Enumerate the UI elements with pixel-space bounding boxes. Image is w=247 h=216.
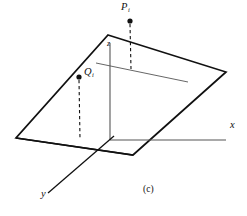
- parallelogram-plane: [16, 35, 226, 155]
- figure-container: Pi Qi x y z (c): [0, 0, 247, 216]
- point-marker-p: [127, 18, 132, 23]
- point-label-p-base: P: [121, 1, 127, 12]
- coordinate-system-diagram: [0, 0, 247, 216]
- point-label-q: Qi: [84, 67, 93, 78]
- figure-caption: (c): [143, 184, 154, 194]
- projection-line-q: [79, 80, 80, 139]
- point-label-p: Pi: [121, 2, 129, 13]
- point-label-p-subscript: i: [128, 6, 130, 13]
- axis-label-x: x: [230, 120, 235, 131]
- point-label-q-base: Q: [84, 66, 92, 77]
- projection-line-p: [130, 24, 131, 69]
- point-label-q-subscript: i: [92, 71, 94, 78]
- axis-label-z: z: [107, 40, 110, 48]
- point-marker-q: [76, 74, 81, 79]
- axis-label-y: y: [41, 189, 46, 200]
